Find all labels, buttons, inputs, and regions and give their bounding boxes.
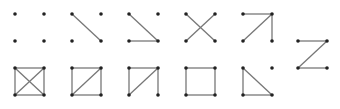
vertex-bl [184,93,188,97]
vertex-br [270,39,274,43]
vertex-tl [13,66,17,70]
vertex-tl [296,39,300,43]
vertex-tr [99,66,103,70]
vertex-tr [99,12,103,16]
graph-diagram [0,0,340,109]
graph-complete-k4 [13,66,46,97]
vertex-tl [127,12,131,16]
vertex-bl [13,93,17,97]
vertex-bl [127,93,131,97]
vertex-tl [70,66,74,70]
vertex-bl [184,39,188,43]
graph-empty [13,12,46,43]
graph-cross [184,12,217,43]
vertex-tr [325,39,329,43]
vertex-bl [241,93,245,97]
vertex-bl [70,39,74,43]
vertex-tr [156,66,160,70]
edge [298,41,327,68]
vertex-tl [241,12,245,16]
edge [129,68,158,95]
vertex-br [156,39,160,43]
vertex-br [270,93,274,97]
graph-square-diagonal [70,66,103,97]
vertex-tl [184,66,188,70]
vertex-tl [184,12,188,16]
vertex-tl [13,12,17,16]
graph-top-diag-right [241,12,274,43]
vertex-br [156,93,160,97]
edge [243,14,272,41]
vertex-br [99,93,103,97]
graph-open-square-diagonal [127,66,160,97]
graph-z-path [296,39,329,70]
vertex-tr [156,12,160,16]
vertex-bl [296,66,300,70]
vertex-bl [70,93,74,97]
graph-one-diagonal [70,12,103,43]
vertex-tl [70,12,74,16]
vertex-tr [213,12,217,16]
vertex-br [42,93,46,97]
vertex-tl [127,66,131,70]
vertex-bl [241,39,245,43]
graph-diagonal-bottom [127,12,160,43]
vertex-tr [42,12,46,16]
vertex-tr [270,12,274,16]
vertex-tr [213,66,217,70]
vertex-br [213,93,217,97]
edge [72,14,101,41]
edge [129,14,158,41]
vertex-br [99,39,103,43]
vertex-br [213,39,217,43]
vertex-br [42,39,46,43]
vertex-tr [270,66,274,70]
vertex-tr [42,66,46,70]
vertex-br [325,66,329,70]
vertex-bl [13,39,17,43]
edge [243,68,272,95]
vertex-tl [241,66,245,70]
edge [72,68,101,95]
graph-square [184,66,217,97]
graph-triangle-plus-point [241,66,274,97]
vertex-bl [127,39,131,43]
